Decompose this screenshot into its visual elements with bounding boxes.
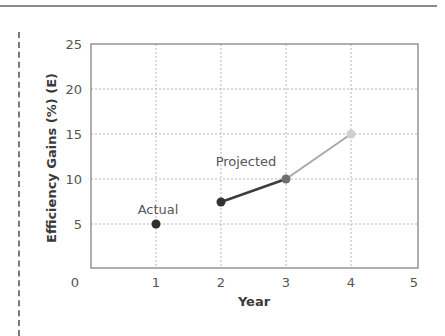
x-tick-4: 4 xyxy=(347,275,355,290)
projected-segment-3-4 xyxy=(286,134,351,179)
y-tick-5: 5 xyxy=(74,217,82,232)
x-tick-1: 1 xyxy=(152,275,160,290)
x-tick-2: 2 xyxy=(217,275,225,290)
data-point-year-1 xyxy=(152,220,161,229)
actual-series xyxy=(152,220,161,229)
projected-label: Projected xyxy=(216,154,277,169)
y-axis-title: Efficiency Gains (%) (E) xyxy=(44,73,59,243)
efficiency-gains-chart: 25 20 15 10 5 0 1 2 3 4 5 Year Efficienc… xyxy=(0,0,445,336)
x-tick-5: 5 xyxy=(410,275,418,290)
data-point-year-2 xyxy=(217,198,226,207)
y-tick-20: 20 xyxy=(65,82,82,97)
x-tick-0: 0 xyxy=(71,275,79,290)
y-tick-25: 25 xyxy=(65,37,82,52)
data-point-year-4 xyxy=(347,130,356,139)
y-tick-10: 10 xyxy=(65,172,82,187)
y-tick-15: 15 xyxy=(65,127,82,142)
x-axis-ticks: 0 1 2 3 4 5 xyxy=(71,275,418,290)
projected-segment-2-3 xyxy=(221,179,286,202)
x-tick-3: 3 xyxy=(282,275,290,290)
data-point-year-3 xyxy=(282,175,291,184)
actual-label: Actual xyxy=(138,202,179,217)
y-axis-ticks: 25 20 15 10 5 xyxy=(65,37,82,232)
x-axis-title: Year xyxy=(237,294,271,309)
